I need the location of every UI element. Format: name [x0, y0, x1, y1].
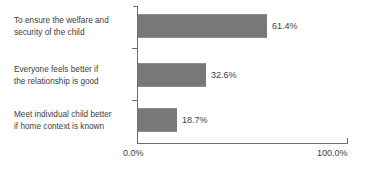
- value-label-2: 32.6%: [211, 70, 237, 80]
- x-axis-tick-100: [347, 138, 348, 144]
- value-label-3: 18.7%: [182, 115, 208, 125]
- x-axis-line: [137, 143, 348, 144]
- y-axis-tick-1: [132, 48, 138, 49]
- y-axis-tick-2: [132, 100, 138, 101]
- category-label-3-line-1: Meet individual child better: [14, 109, 134, 121]
- category-label-3: Meet individual child better if home con…: [14, 109, 134, 132]
- bar-series-3: [138, 108, 177, 132]
- value-label-1: 61.4%: [272, 21, 298, 31]
- category-label-1-line-2: security of the child: [14, 27, 134, 39]
- x-tick-label-100: 100.0%: [317, 148, 348, 159]
- y-axis-top-cap: [133, 6, 138, 7]
- bar-series-2: [138, 63, 206, 87]
- category-label-3-line-2: if home context is known: [14, 121, 134, 133]
- category-label-2-line-1: Everyone feels better if: [14, 64, 134, 76]
- x-tick-label-0: 0.0%: [123, 148, 144, 159]
- bar-chart: To ensure the welfare and security of th…: [0, 0, 375, 170]
- category-label-1-line-1: To ensure the welfare and: [14, 15, 134, 27]
- x-axis-tick-0: [137, 138, 138, 144]
- bar-series-1: [138, 14, 267, 38]
- category-label-2: Everyone feels better if the relationshi…: [14, 64, 134, 87]
- category-label-1: To ensure the welfare and security of th…: [14, 15, 134, 38]
- category-label-2-line-2: the relationship is good: [14, 76, 134, 88]
